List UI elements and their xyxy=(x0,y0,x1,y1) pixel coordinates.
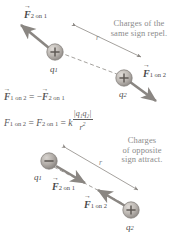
bottom-caption-line-3: sign attract. xyxy=(104,155,180,165)
bottom-charge-1-label: q1 xyxy=(34,172,42,182)
equation-coulomb-magnitude: F1 on 2 = F2 on 1 = k|q₁q₂|r2 xyxy=(4,110,93,132)
top-force-2-subscript: 1 on 2 xyxy=(150,71,166,78)
eq1-lhs-symbol: F xyxy=(4,92,10,102)
bottom-force-1-subscript: 2 on 1 xyxy=(59,184,75,191)
top-charge-1-sphere xyxy=(47,44,63,60)
top-force-label-on-charge-1: F2 on 1 xyxy=(24,9,47,20)
eq2-equals-2: = xyxy=(61,118,66,128)
top-force-1-subscript: 2 on 1 xyxy=(31,12,47,19)
top-force-arrow-on-charge-1 xyxy=(21,25,49,48)
top-charge-2-label: q2 xyxy=(119,89,127,99)
bottom-distance-label: r xyxy=(99,158,102,167)
eq2-first-subscript: 1 on 2 xyxy=(10,120,26,127)
eq1-rhs-subscript: 2 on 1 xyxy=(48,94,64,101)
bottom-force-2-subscript: 1 on 2 xyxy=(91,202,107,209)
eq1-rhs-symbol: F xyxy=(42,92,48,102)
bottom-force-1-symbol: F xyxy=(52,181,59,192)
coulomb-law-figure: Charges of the same sign repel. F2 on 1 … xyxy=(0,0,183,242)
bottom-force-label-on-charge-1: F2 on 1 xyxy=(52,181,75,192)
bottom-charge-2-label: q2 xyxy=(126,222,134,232)
top-charge-1-label: q1 xyxy=(50,64,58,74)
bottom-charge-1-subscript: 1 xyxy=(39,174,42,181)
top-distance-label: r xyxy=(96,33,99,42)
bottom-force-label-on-charge-2: F1 on 2 xyxy=(84,199,107,210)
eq2-fraction: |q₁q₂|r2 xyxy=(73,110,93,132)
bottom-caption: Charges of opposite sign attract. xyxy=(104,136,180,165)
eq2-denominator: r2 xyxy=(73,120,93,132)
bottom-charge-2-sphere xyxy=(123,202,139,218)
top-force-1-symbol: F xyxy=(24,9,31,20)
top-charge-2-sphere xyxy=(116,70,132,86)
top-charge-2-subscript: 2 xyxy=(124,91,127,98)
top-force-2-symbol: F xyxy=(143,68,150,79)
top-caption-line-2: same sign repel. xyxy=(97,29,181,39)
eq1-operator: = xyxy=(29,92,34,102)
eq2-denominator-exponent: 2 xyxy=(83,121,86,127)
bottom-charge-1-sphere xyxy=(41,153,57,169)
eq1-lhs-subscript: 1 on 2 xyxy=(10,94,26,101)
eq2-numerator: |q₁q₂| xyxy=(73,110,93,120)
equation-newton-third-law: F1 on 2 = −F2 on 1 xyxy=(4,92,65,102)
eq2-second-subscript: 2 on 1 xyxy=(42,120,58,127)
top-charge-1-subscript: 1 xyxy=(55,66,58,73)
bottom-charge-2-subscript: 2 xyxy=(131,224,134,231)
top-separation-dashed-line xyxy=(53,50,122,76)
bottom-force-2-symbol: F xyxy=(84,199,91,210)
top-caption: Charges of the same sign repel. xyxy=(97,19,181,38)
top-force-label-on-charge-2: F1 on 2 xyxy=(143,68,166,79)
eq2-equals-1: = xyxy=(28,118,33,128)
